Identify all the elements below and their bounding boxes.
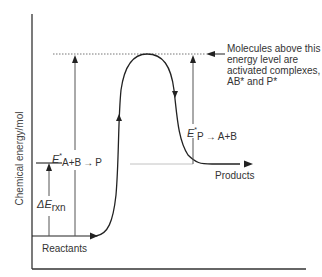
diagram-graphics xyxy=(0,0,322,277)
activated-complex-annotation: Molecules above this energy level are ac… xyxy=(227,43,320,87)
reverse-activation-label: E*P → A+B xyxy=(187,124,237,140)
energy-diagram: Chemical energy/mol E*A+B → P E*P → A+B … xyxy=(0,0,322,277)
reactants-label: Reactants xyxy=(42,243,87,255)
annotation-line-4: AB* and P* xyxy=(227,76,320,87)
annotation-line-2: energy level are xyxy=(227,54,320,65)
products-arrowhead-icon xyxy=(244,161,253,168)
products-label: Products xyxy=(215,170,254,182)
downhill-arrow-icon xyxy=(172,91,178,98)
annotation-line-1: Molecules above this xyxy=(227,43,320,54)
delta-e-symbol: ΔE xyxy=(37,198,52,210)
forward-activation-label: E*A+B → P xyxy=(52,150,102,166)
reverse-activation-subscript: P → A+B xyxy=(197,131,237,142)
forward-activation-arrowhead-icon xyxy=(72,55,78,63)
annotation-line-3: activated complexes, xyxy=(227,65,320,76)
reverse-activation-arrowhead-icon xyxy=(190,55,196,63)
annotation-arrowhead-icon xyxy=(206,51,215,57)
delta-e-rxn-label: ΔErxn xyxy=(37,198,66,211)
y-axis-label: Chemical energy/mol xyxy=(14,109,25,209)
reaction-curve xyxy=(96,54,240,236)
delta-e-subscript: rxn xyxy=(52,202,66,213)
forward-activation-subscript: A+B → P xyxy=(62,157,102,168)
uphill-arrow-icon xyxy=(116,114,122,121)
